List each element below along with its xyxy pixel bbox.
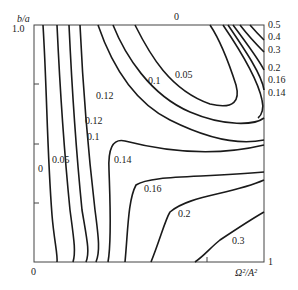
label-016: 0.16 <box>144 183 162 194</box>
x-axis-label: Ω²/A² <box>235 267 258 278</box>
right-label-05: 0.5 <box>268 19 281 30</box>
plot-frame <box>34 25 264 262</box>
right-label-014: 0.14 <box>268 87 286 98</box>
label-01: 0.1 <box>87 131 100 142</box>
contour-chart: b/a 1.0 0 1 Ω²/A² 0 0 0.05 0.1 0.12 0.12… <box>0 0 298 290</box>
right-label-04: 0.4 <box>268 31 281 42</box>
contour-0.12-left <box>80 25 99 262</box>
label-02: 0.2 <box>178 208 191 219</box>
label-005: 0.05 <box>52 154 70 165</box>
contour-0.3 <box>195 212 264 262</box>
right-label-03: 0.3 <box>268 44 281 55</box>
right-label-02: 0.2 <box>268 62 281 73</box>
x-tick-label-end: 1 <box>268 256 273 267</box>
contour-0.05-loop <box>135 25 237 106</box>
contour-0.2 <box>151 180 264 262</box>
label-0: 0 <box>38 163 43 174</box>
label-014: 0.14 <box>114 154 132 165</box>
top-edge-label: 0 <box>174 11 179 22</box>
contour-0.05 <box>57 25 74 262</box>
label-01-mid: 0.1 <box>148 75 161 86</box>
contour-0.4-right <box>250 25 264 40</box>
label-005-mid: 0.05 <box>175 69 193 80</box>
x-tick-label-origin: 0 <box>31 266 36 277</box>
right-label-016: 0.16 <box>268 74 286 85</box>
label-012-mid: 0.12 <box>96 90 114 101</box>
contour-lines <box>43 25 264 262</box>
contour-0 <box>43 25 57 262</box>
label-012: 0.12 <box>85 115 103 126</box>
label-03: 0.3 <box>232 235 245 246</box>
y-tick-label-top: 1.0 <box>12 23 25 34</box>
